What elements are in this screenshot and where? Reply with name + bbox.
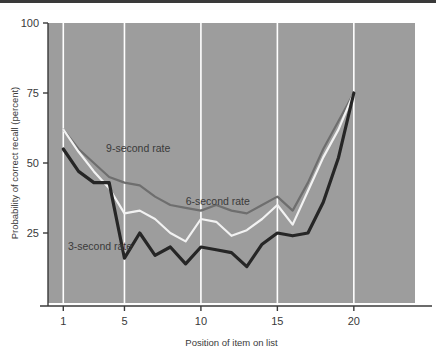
y-tick-label-75: 75 — [27, 87, 39, 99]
x-tick-label-10: 10 — [195, 315, 207, 327]
y-tick-label-100: 100 — [21, 17, 39, 29]
chart-figure-root: 25507510015101520Probability of correct … — [0, 0, 436, 359]
y-tick-label-50: 50 — [27, 157, 39, 169]
x-tick-label-1: 1 — [60, 315, 66, 327]
x-axis-title: Position of item on list — [185, 337, 278, 348]
x-tick-label-15: 15 — [271, 315, 283, 327]
series-label-3-second-rate: 3-second rate — [68, 240, 132, 252]
y-tick-label-25: 25 — [27, 227, 39, 239]
chart-canvas: 25507510015101520Probability of correct … — [0, 3, 436, 359]
series-label-6-second-rate: 6-second rate — [186, 195, 250, 207]
plot-area-background — [48, 23, 415, 303]
serial-position-chart: 25507510015101520Probability of correct … — [0, 3, 436, 359]
series-label-9-second-rate: 9-second rate — [106, 142, 170, 154]
y-axis-title: Probability of correct recall (percent) — [9, 87, 20, 240]
x-tick-label-5: 5 — [121, 315, 127, 327]
x-tick-label-20: 20 — [348, 315, 360, 327]
